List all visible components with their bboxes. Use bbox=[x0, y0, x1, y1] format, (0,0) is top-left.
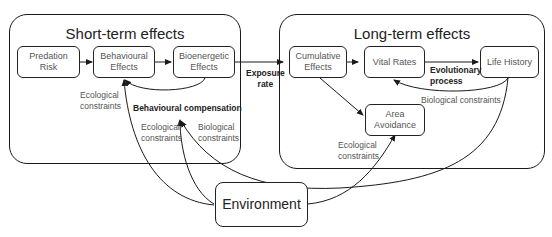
group-long-term-effects: Long-term effects bbox=[279, 14, 545, 169]
node-behavioural-effects[interactable]: Behavioural Effects bbox=[93, 46, 155, 78]
label-biological-constraints-2: Biological constraints bbox=[421, 95, 501, 106]
label-ecological-constraints-3: Ecological constraints bbox=[338, 140, 379, 162]
label-evolutionary-process: Evolutionary process bbox=[430, 65, 481, 87]
node-life-history[interactable]: Life History bbox=[480, 46, 539, 78]
label-ecological-constraints-2: Ecological constraints bbox=[141, 122, 182, 144]
label-behavioural-compensation: Behavioural compensation bbox=[133, 103, 242, 114]
node-vital-rates[interactable]: Vital Rates bbox=[364, 46, 425, 78]
node-cumulative-effects[interactable]: Cumulative Effects bbox=[289, 46, 347, 78]
node-bioenergetic-effects[interactable]: Bioenergetic Effects bbox=[173, 46, 235, 78]
label-exposure-rate: Exposure rate bbox=[246, 68, 285, 90]
group-title-short-term: Short-term effects bbox=[10, 25, 240, 42]
node-predation-risk[interactable]: Predation Risk bbox=[17, 46, 80, 78]
label-ecological-constraints-1: Ecological constraints bbox=[80, 90, 121, 112]
label-biological-constraints-1: Biological constraints bbox=[198, 122, 239, 144]
node-area-avoidance[interactable]: Area Avoidance bbox=[365, 104, 425, 136]
node-environment[interactable]: Environment bbox=[215, 182, 308, 227]
group-title-long-term: Long-term effects bbox=[280, 25, 544, 42]
